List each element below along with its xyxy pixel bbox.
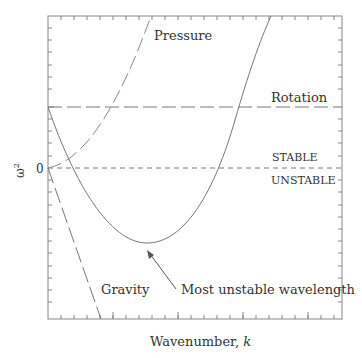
y-axis-label: ω2 [13,163,26,178]
pressure-label: Pressure [154,29,212,42]
x-axis-label: Wavenumber, k [150,335,251,348]
y-axis-exponent: 2 [12,163,21,168]
pressure-curve [48,16,151,168]
x-axis-variable: k [243,334,251,349]
most-unstable-label: Most unstable wavelength [181,283,355,296]
gravity-line [48,168,101,319]
x-axis-text: Wavenumber, [150,334,243,349]
gravity-label: Gravity [101,283,149,296]
y-axis-symbol: ω [13,168,27,178]
rotation-label: Rotation [271,91,327,104]
zero-tick-label: 0 [36,163,44,175]
stable-label: STABLE [272,152,318,163]
dispersion-curve [48,16,271,243]
unstable-label: UNSTABLE [271,175,336,186]
arrow-line [150,254,176,289]
